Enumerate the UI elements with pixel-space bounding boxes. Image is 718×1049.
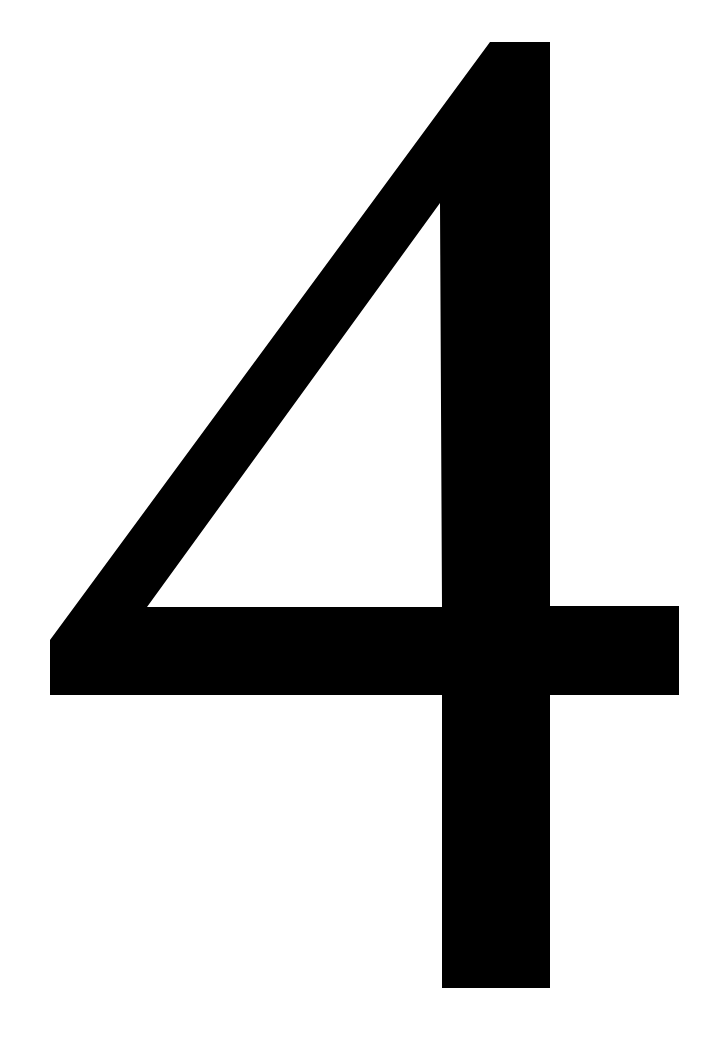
page-background [0, 0, 718, 1049]
numeral-four-glyph [0, 0, 718, 1049]
